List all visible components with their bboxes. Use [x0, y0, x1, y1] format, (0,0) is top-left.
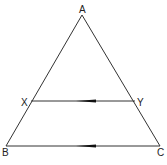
label-x: X: [21, 97, 28, 108]
side-ab: [6, 15, 82, 146]
label-y: Y: [137, 97, 144, 108]
side-ac: [82, 15, 160, 146]
label-b: B: [2, 147, 9, 158]
label-a: A: [79, 4, 86, 15]
parallel-arrow-bc-icon: [76, 145, 96, 148]
parallel-arrow-xy-icon: [76, 100, 96, 103]
triangle-diagram: A X Y B C: [0, 0, 167, 165]
label-c: C: [157, 147, 164, 158]
